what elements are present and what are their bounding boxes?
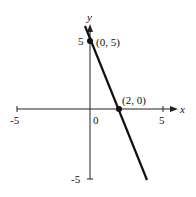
origin-label: 0 <box>93 114 99 126</box>
x-tick-label-neg5: -5 <box>10 114 20 126</box>
x-axis-arrow-icon <box>170 106 178 112</box>
y-tick-label-5: 5 <box>78 35 84 47</box>
x-axis-label: x <box>179 103 185 115</box>
x-tick-label-5: 5 <box>159 114 165 126</box>
y-tick-label-neg5: -5 <box>71 173 81 185</box>
chart: x -5 5 0 y 5 -5 (0, 5) (2, 0) <box>0 0 196 197</box>
point-label-2-0: (2, 0) <box>122 94 146 107</box>
y-axis-label: y <box>86 11 92 23</box>
point-0-5 <box>87 38 93 44</box>
point-2-0 <box>116 106 122 112</box>
point-label-0-5: (0, 5) <box>96 36 120 49</box>
